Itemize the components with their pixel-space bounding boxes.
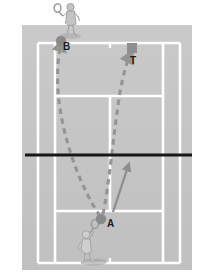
target-square-marker	[127, 43, 137, 53]
label-ball-a: A	[107, 219, 114, 229]
court-surface	[22, 25, 192, 270]
tennis-court-diagram: B A T	[0, 0, 202, 278]
bottom-player-shadow	[81, 259, 107, 266]
label-ball-b: B	[63, 42, 70, 52]
court-svg	[0, 0, 202, 278]
ball-marker-a	[96, 214, 106, 224]
label-target-t: T	[130, 56, 136, 66]
